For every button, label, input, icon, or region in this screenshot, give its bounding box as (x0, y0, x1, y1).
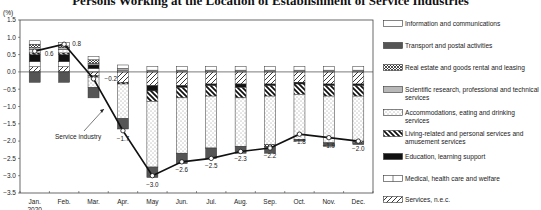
bar-segment (88, 60, 99, 63)
y-tick-label: 0.5 (7, 51, 16, 58)
legend-label: Scientific research, professional and te… (405, 86, 540, 102)
bar-segment (59, 72, 70, 82)
bar-stack (147, 67, 158, 178)
bar-segment (147, 72, 158, 86)
bar-segment (147, 91, 158, 101)
bar-segment (294, 72, 305, 82)
bar-segment (353, 84, 364, 86)
bar-stack (323, 67, 334, 147)
info-swatch-icon (383, 20, 403, 27)
line-marker (238, 149, 242, 153)
data-label: −2.5 (205, 162, 218, 169)
bar-segment (147, 101, 158, 167)
y-tick-label: −2.0 (3, 137, 16, 144)
legend-item-transport: Transport and postal activities (383, 42, 540, 50)
line-marker (150, 174, 154, 178)
bar-segment (206, 96, 217, 148)
bar-segment (176, 72, 187, 86)
bar-segment (147, 86, 158, 91)
legend-label: Transport and postal activities (405, 42, 540, 50)
y-tick-label: −3.0 (3, 172, 16, 179)
bar-segment (206, 84, 217, 86)
x-tick-label: Oct. (293, 198, 305, 205)
bar-segment (29, 55, 40, 62)
bar-segment (265, 86, 276, 96)
data-label: −2.0 (352, 145, 365, 152)
line-marker (327, 135, 331, 139)
y-tick-label: 1.0 (7, 34, 16, 41)
line-marker (268, 146, 272, 150)
bar-segment (206, 86, 217, 96)
bar-segment (117, 82, 128, 84)
line-marker (91, 77, 95, 81)
bar-segment (265, 72, 276, 84)
bar-segment (88, 63, 99, 65)
x-tick-label: Jul. (206, 198, 216, 205)
line-marker (33, 49, 37, 53)
x-tick-label: Sep. (263, 198, 277, 206)
bar-segment (59, 55, 70, 62)
bar-segment (353, 96, 364, 141)
bar-segment (323, 86, 334, 96)
bar-segment (176, 98, 187, 153)
bar-segment (117, 65, 128, 68)
y-tick-label: −2.5 (3, 155, 16, 162)
bar-segment (235, 84, 246, 87)
medical-swatch-icon (383, 175, 403, 182)
line-marker (356, 139, 360, 143)
scientific-swatch-icon (383, 86, 403, 93)
nec-swatch-icon (383, 196, 403, 203)
x-tick-label: Apr. (117, 198, 129, 206)
bar-segment (265, 67, 276, 70)
bar-segment (29, 62, 40, 67)
bar-segment (29, 67, 40, 72)
legend-item-education: Education, learning support (383, 153, 540, 161)
legend-item-realestate: Real estate and goods rental and leasing (383, 64, 540, 72)
bar-segment (235, 67, 246, 70)
data-label: −3.0 (146, 181, 159, 188)
bar-stack (353, 67, 364, 145)
legend-item-info: Information and communications (383, 20, 540, 28)
bar-segment (88, 65, 99, 68)
data-label: −1.8 (293, 138, 306, 145)
bar-segment (117, 68, 128, 70)
bar-segment (235, 87, 246, 97)
data-label: −0.2 (105, 75, 118, 82)
line-marker (297, 132, 301, 136)
bar-segment (353, 72, 364, 84)
bar-segment (117, 72, 128, 82)
legend-item-living: Living-related and personal services and… (383, 130, 540, 146)
bar-segment (176, 87, 187, 97)
data-label: −2.3 (234, 155, 247, 162)
bar-segment (59, 67, 70, 72)
living-swatch-icon (383, 130, 403, 137)
legend-label: Living-related and personal services and… (405, 130, 540, 146)
bar-segment (88, 56, 99, 59)
bar-segment (235, 72, 246, 84)
line-marker (180, 160, 184, 164)
y-tick-label: −3.5 (3, 189, 16, 196)
bar-segment (206, 67, 217, 70)
bar-segment (265, 96, 276, 144)
bar-stack (29, 41, 40, 83)
bar-segment (294, 67, 305, 70)
bar-segment (29, 72, 40, 82)
realestate-swatch-icon (383, 64, 403, 71)
legend-label: Real estate and goods rental and leasing (405, 64, 540, 72)
x-tick-label: Aug. (234, 198, 248, 206)
line-marker (62, 42, 66, 46)
legend-item-scientific: Scientific research, professional and te… (383, 86, 540, 102)
transport-swatch-icon (383, 42, 403, 49)
bar-segment (88, 68, 99, 71)
bar-segment (88, 87, 99, 97)
x-tick-label: Feb. (58, 198, 71, 205)
legend-label: Information and communications (405, 20, 540, 28)
y-axis-label: (%) (3, 9, 13, 17)
service-industry-line (35, 44, 359, 175)
bar-segment (206, 72, 217, 84)
year-label: 2020 (27, 206, 42, 210)
y-tick-label: −1.5 (3, 120, 16, 127)
bar-stack (117, 65, 128, 129)
bar-segment (59, 53, 70, 55)
bar-segment (323, 67, 334, 70)
